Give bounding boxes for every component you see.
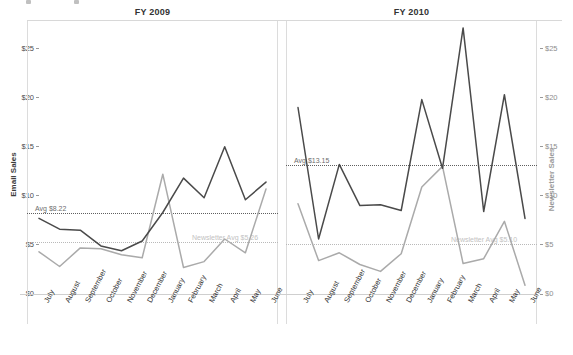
line-newsletter-p1 bbox=[298, 166, 525, 285]
chart-root: FY 2009 FY 2010 Email Sales Newsletter S… bbox=[0, 0, 573, 355]
line-email-p1 bbox=[298, 28, 525, 239]
series-svg-p1 bbox=[0, 0, 573, 355]
